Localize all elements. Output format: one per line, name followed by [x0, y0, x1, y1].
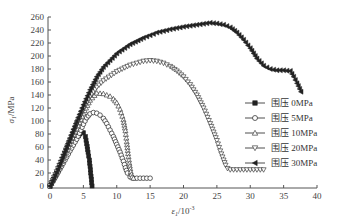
legend-label: 围压 30MPa	[271, 158, 317, 168]
legend-label: 围压 20MPa	[271, 143, 317, 153]
x-tick-label: 5	[81, 191, 86, 201]
x-tick-label: 10	[112, 191, 122, 201]
legend-item: 围压 5MPa	[245, 113, 313, 123]
y-tick-label: 80	[35, 129, 45, 139]
y-tick-label: 240	[31, 25, 45, 35]
x-tick-label: 40	[313, 191, 323, 201]
legend-label: 围压 5MPa	[271, 113, 313, 123]
stress-strain-chart: 0204060801001201401601802002202402600510…	[0, 0, 338, 224]
x-axis-title: ε1/10-3	[171, 205, 194, 217]
y-axis-title: σ1/MPa	[6, 97, 17, 124]
y-tick-label: 40	[35, 155, 45, 165]
legend-label: 围压 10MPa	[271, 128, 317, 138]
y-tick-label: 0	[40, 181, 45, 191]
y-tick-label: 160	[31, 77, 45, 87]
x-tick-label: 30	[246, 191, 256, 201]
y-tick-label: 200	[31, 51, 45, 61]
y-tick-label: 120	[31, 103, 45, 113]
x-tick-label: 15	[146, 191, 156, 201]
y-tick-label: 140	[31, 90, 45, 100]
y-tick-label: 60	[35, 142, 45, 152]
y-tick-label: 100	[31, 116, 45, 126]
legend-label: 围压 0MPa	[271, 98, 313, 108]
legend-item: 围压 20MPa	[245, 143, 317, 153]
x-tick-label: 25	[212, 191, 222, 201]
legend-item: 围压 30MPa	[245, 158, 317, 168]
y-tick-label: 20	[35, 168, 45, 178]
x-tick-label: 35	[279, 191, 289, 201]
legend: 围压 0MPa围压 5MPa围压 10MPa围压 20MPa围压 30MPa	[245, 98, 317, 168]
legend-item: 围压 10MPa	[245, 128, 317, 138]
legend-item: 围压 0MPa	[245, 98, 313, 108]
y-tick-label: 220	[31, 38, 45, 48]
x-tick-label: 0	[48, 191, 53, 201]
y-tick-label: 180	[31, 64, 45, 74]
y-tick-label: 260	[31, 12, 45, 22]
x-tick-label: 20	[179, 191, 189, 201]
